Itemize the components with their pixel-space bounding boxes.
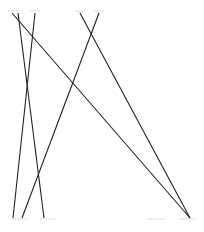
edge-4 <box>80 13 190 218</box>
edge-1 <box>12 13 190 218</box>
edges <box>12 13 190 218</box>
diagram-canvas <box>0 0 204 232</box>
edge-5 <box>22 13 99 218</box>
edge-2 <box>18 13 44 218</box>
node-labels <box>8 11 196 219</box>
edge-3 <box>13 13 35 218</box>
